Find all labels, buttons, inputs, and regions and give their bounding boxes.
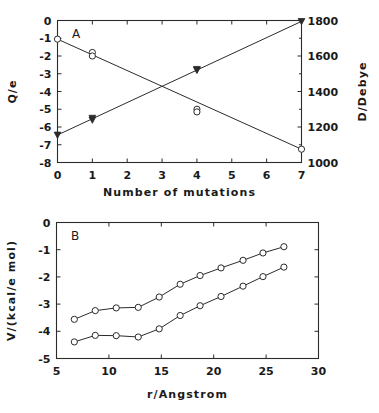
- panel-b-letter: B: [71, 229, 79, 243]
- x-ticklabel: 15: [154, 365, 169, 378]
- panel-a-plot-frame: [58, 21, 302, 163]
- y2-ticklabel: 1600: [308, 50, 339, 63]
- panel-a-ticks: [58, 21, 302, 163]
- data-point-marker: [240, 283, 246, 289]
- y2-ticklabel: 1200: [308, 121, 339, 134]
- panel-a-yaxis-title: Q/e: [6, 79, 19, 103]
- panel-a-xaxis-title: Number of mutations: [103, 186, 256, 199]
- data-point-marker: [240, 257, 246, 263]
- x-ticklabel: 0: [54, 169, 62, 182]
- data-point-marker: [281, 264, 287, 270]
- y-ticklabel: -3: [38, 298, 50, 311]
- y2-ticklabel: 1000: [308, 157, 339, 170]
- x-ticklabel: 4: [193, 169, 201, 182]
- x-ticklabel: 20: [206, 365, 222, 378]
- data-point-marker: [298, 18, 305, 24]
- panel-b-yaxis-title: V/(kcal/e mol): [5, 240, 18, 341]
- y-ticklabel: -7: [39, 139, 51, 152]
- x-ticklabel: 7: [298, 169, 306, 182]
- data-point-marker: [197, 303, 203, 309]
- data-point-marker: [281, 244, 287, 250]
- panel-a-y2axis-title: D/Debye: [356, 62, 369, 122]
- data-point-marker: [54, 132, 61, 138]
- data-point-marker: [218, 265, 224, 271]
- data-point-marker: [218, 293, 224, 299]
- y-ticklabel: -3: [39, 68, 51, 81]
- x-ticklabel: 30: [311, 365, 327, 378]
- x-ticklabel: 5: [53, 365, 61, 378]
- data-point-marker: [92, 332, 98, 338]
- panel-a-letter: A: [72, 27, 81, 41]
- y-ticklabel: -4: [38, 325, 51, 338]
- data-line: [74, 267, 284, 342]
- y-ticklabel: -6: [39, 121, 52, 134]
- y-ticklabel: -4: [39, 86, 52, 99]
- y-ticklabel: -1: [38, 244, 50, 257]
- data-point-marker: [89, 53, 95, 59]
- data-point-marker: [177, 281, 183, 287]
- data-point-marker: [156, 294, 162, 300]
- data-point-marker: [194, 109, 200, 115]
- panel-a: 012345670-1-2-3-4-5-6-7-8100012001400160…: [6, 15, 369, 200]
- data-point-marker: [135, 304, 141, 310]
- y2-ticklabel: 1800: [308, 15, 339, 28]
- y-ticklabel: -5: [38, 353, 50, 366]
- data-point-marker: [92, 308, 98, 314]
- data-point-marker: [260, 250, 266, 256]
- panel-b: 510152025300-1-2-3-4-5 B r/Angstrom V/(k…: [5, 217, 326, 402]
- y-ticklabel: -1: [39, 32, 51, 45]
- y-ticklabel: -5: [39, 103, 51, 116]
- data-point-marker: [260, 274, 266, 280]
- data-point-marker: [156, 326, 162, 332]
- y-ticklabel: -2: [39, 50, 51, 63]
- panel-b-series: [71, 244, 287, 345]
- x-ticklabel: 3: [158, 169, 166, 182]
- x-ticklabel: 6: [263, 169, 271, 182]
- x-ticklabel: 5: [228, 169, 236, 182]
- y-ticklabel: -8: [39, 157, 51, 170]
- panel-b-ticklabels: 510152025300-1-2-3-4-5: [38, 217, 326, 378]
- x-ticklabel: 25: [258, 365, 273, 378]
- data-point-marker: [194, 67, 201, 73]
- data-point-marker: [197, 272, 203, 278]
- x-ticklabel: 1: [89, 169, 97, 182]
- data-point-marker: [298, 146, 304, 152]
- data-point-marker: [113, 333, 119, 339]
- data-point-marker: [71, 339, 77, 345]
- y2-ticklabel: 1400: [308, 86, 339, 99]
- data-point-marker: [54, 36, 60, 42]
- figure-container: 012345670-1-2-3-4-5-6-7-8100012001400160…: [0, 0, 379, 413]
- data-point-marker: [113, 305, 119, 311]
- panel-a-series: [54, 18, 305, 152]
- y-ticklabel: -2: [38, 271, 50, 284]
- data-point-marker: [135, 334, 141, 340]
- y-ticklabel: 0: [44, 15, 52, 28]
- figure-svg: 012345670-1-2-3-4-5-6-7-8100012001400160…: [0, 0, 379, 413]
- y-ticklabel: 0: [43, 217, 51, 230]
- x-ticklabel: 2: [123, 169, 131, 182]
- x-ticklabel: 10: [101, 365, 117, 378]
- data-point-marker: [71, 316, 77, 322]
- panel-b-xaxis-title: r/Angstrom: [147, 388, 228, 401]
- data-point-marker: [177, 312, 183, 318]
